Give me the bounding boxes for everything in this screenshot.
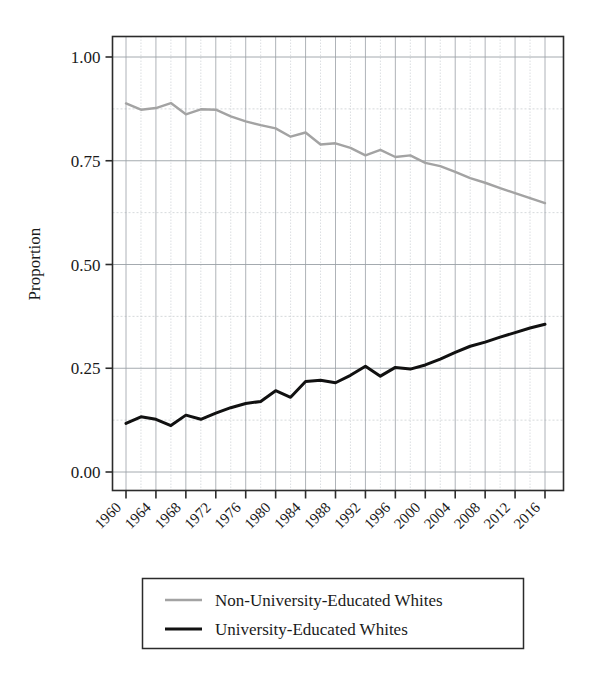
- legend-item-label: University-Educated Whites: [215, 620, 408, 639]
- y-tick-label: 0.00: [71, 463, 101, 482]
- y-axis-title-text: Proportion: [25, 227, 44, 300]
- y-tick-label: 1.00: [71, 48, 101, 67]
- y-tick-label: 0.75: [71, 152, 101, 171]
- legend-item-label: Non-University-Educated Whites: [215, 591, 443, 610]
- chart-figure: Proportion 0.000.250.500.751.00 19601964…: [0, 0, 593, 698]
- y-tick-label: 0.25: [71, 359, 101, 378]
- y-tick-label: 0.50: [71, 256, 101, 275]
- y-axis-title: Proportion: [25, 227, 44, 300]
- legend: Non-University-Educated Whites Universit…: [143, 579, 524, 649]
- line-chart: Proportion 0.000.250.500.751.00 19601964…: [0, 0, 593, 698]
